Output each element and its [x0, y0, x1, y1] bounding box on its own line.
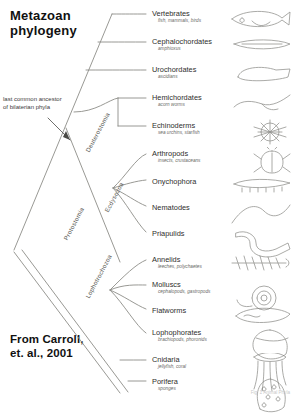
taxon-subtitle-arthropods: insects, crustaceans [152, 158, 200, 164]
taxon-urochordates: Urochordatesascidians [152, 66, 196, 80]
taxon-vertebrates: Vertebratesfish, mammals, birds [152, 10, 201, 24]
branch-molluscs [110, 285, 146, 290]
taxon-name-annelids: Annelids [152, 256, 202, 264]
taxon-name-lophophorates: Lophophorates [152, 329, 207, 337]
artwork-annelids [230, 253, 292, 273]
artwork-cephalochordates [232, 35, 292, 53]
taxon-name-vertebrates: Vertebrates [152, 10, 201, 18]
taxon-name-echinoderms: Echinoderms [152, 122, 200, 130]
artwork-urochordates [232, 63, 292, 83]
artwork-flatworms [232, 304, 292, 328]
taxon-name-nematodes: Nematodes [152, 204, 190, 212]
taxon-nematodes: Nematodes [152, 204, 190, 212]
taxon-name-cnidaria: Cnidaria [152, 356, 186, 364]
taxon-name-flatworms: Flatworms [152, 307, 186, 315]
taxon-flatworms: Flatworms [152, 307, 186, 315]
taxon-echinoderms: Echinodermssea urchins, starfish [152, 122, 200, 136]
taxon-name-porifera: Porifera [152, 378, 178, 386]
taxon-porifera: Poriferasponges [152, 378, 178, 392]
taxon-name-onychophora: Onychophora [152, 178, 196, 186]
trunk-protostomia-2 [22, 250, 128, 392]
taxon-name-urochordates: Urochordates [152, 66, 196, 74]
taxon-name-arthropods: Arthropods [152, 150, 200, 158]
branch-ambulacraria [74, 98, 118, 112]
taxon-annelids: Annelidsleeches, polychaetes [152, 256, 202, 270]
artwork-arthropods [252, 147, 292, 175]
taxon-priapulids: Priapulids [152, 230, 184, 238]
taxon-subtitle-lophophorates: brachiopods, phoronids [152, 337, 207, 343]
artwork-nematodes [230, 201, 292, 225]
taxon-subtitle-hemichordates: acorn worms [152, 102, 202, 108]
taxon-name-cephalochordates: Cephalochordates [152, 38, 212, 46]
taxon-subtitle-urochordates: ascidians [152, 74, 196, 80]
taxon-name-hemichordates: Hemichordates [152, 94, 202, 102]
taxon-name-priapulids: Priapulids [152, 230, 184, 238]
taxon-subtitle-porifera: sponges [152, 386, 178, 392]
artwork-porifera [250, 375, 292, 415]
taxon-arthropods: Arthropodsinsects, crustaceans [152, 150, 200, 164]
corner-caption: Fig. 1 Animal Phyla [251, 390, 290, 395]
taxon-name-molluscs: Molluscs [152, 281, 210, 289]
taxon-cnidaria: Cnidariajellyfish, coral [152, 356, 186, 370]
taxon-subtitle-vertebrates: fish, mammals, birds [152, 18, 201, 24]
taxon-cephalochordates: Cephalochordatesamphioxus [152, 38, 212, 52]
taxon-subtitle-annelids: leeches, polychaetes [152, 264, 202, 270]
artwork-hemichordates [232, 91, 292, 113]
branch-lophophorates [110, 290, 146, 333]
taxon-subtitle-molluscs: cephalopods, gastropods [152, 289, 210, 295]
taxon-subtitle-cephalochordates: amphioxus [152, 46, 212, 52]
artwork-echinoderms [248, 119, 292, 145]
taxon-molluscs: Molluscscephalopods, gastropods [152, 281, 210, 295]
taxon-subtitle-cnidaria: jellyfish, coral [152, 364, 186, 370]
artwork-onychophora [232, 175, 292, 193]
taxon-onychophora: Onychophora [152, 178, 196, 186]
artwork-vertebrates [228, 7, 292, 31]
taxon-subtitle-echinoderms: sea urchins, starfish [152, 130, 200, 136]
trunk-protostomia [14, 252, 120, 393]
taxon-lophophorates: Lophophoratesbrachiopods, phoronids [152, 329, 207, 343]
taxon-hemichordates: Hemichordatesacorn worms [152, 94, 202, 108]
branch-flatworms [110, 290, 146, 309]
